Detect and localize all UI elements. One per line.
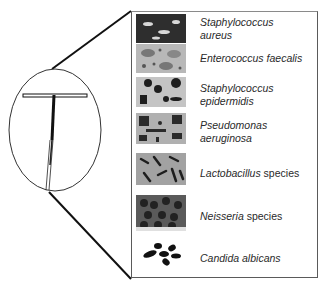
lactobacillus-micrograph: [136, 153, 186, 185]
label-line1: Candida albicans: [200, 252, 281, 264]
neisseria-micrograph: [136, 195, 186, 231]
cocci-clusters-micrograph: [136, 14, 186, 43]
organism-label-staphylococcus-epidermidis: Staphylococcus epidermidis: [200, 82, 274, 107]
zoom-line-top: [52, 11, 131, 69]
organism-label-staphylococcus-aureus: Staphylococcus aureus: [200, 16, 274, 41]
label-suffix: species: [244, 210, 283, 222]
enterococcus-micrograph: [136, 44, 186, 73]
label-line1: Staphylococcus: [200, 16, 274, 28]
label-line2: aeruginosa: [200, 132, 252, 144]
label-genus: Lactobacillus: [200, 167, 261, 179]
label-line1: Staphylococcus: [200, 82, 274, 94]
iud-enclosure-ellipse: [9, 69, 101, 191]
organism-label-lactobacillus: Lactobacillus species: [200, 167, 299, 180]
organism-label-enterococcus-faecalis: Enterococcus faecalis: [200, 52, 302, 65]
zoom-line-bottom: [49, 192, 131, 279]
organism-label-candida-albicans: Candida albicans: [200, 252, 281, 265]
label-line1: Pseudomonas: [200, 119, 267, 131]
organism-label-pseudomonas-aeruginosa: Pseudomonas aeruginosa: [200, 119, 267, 144]
staph-epidermidis-micrograph: [136, 77, 186, 107]
organism-label-neisseria: Neisseria species: [200, 210, 282, 223]
label-line2: aureus: [200, 29, 232, 41]
pseudomonas-micrograph: [136, 113, 186, 144]
label-genus: Neisseria: [200, 210, 244, 222]
label-line1: Enterococcus faecalis: [200, 52, 302, 64]
label-line2: epidermidis: [200, 95, 254, 107]
candida-micrograph: [136, 238, 186, 268]
label-suffix: species: [261, 167, 300, 179]
